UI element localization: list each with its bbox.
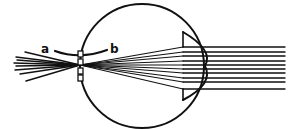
refracted-ray <box>80 56 183 65</box>
retina-marker <box>78 51 83 57</box>
label-a: a <box>41 42 49 56</box>
retina-marker <box>78 68 83 74</box>
light-rays <box>14 47 285 89</box>
refracted-ray <box>80 47 183 65</box>
retina-marker <box>78 59 83 65</box>
label-b: b <box>110 42 119 56</box>
eye-ray-diagram: a b <box>0 0 298 129</box>
retina-marker <box>78 75 83 81</box>
